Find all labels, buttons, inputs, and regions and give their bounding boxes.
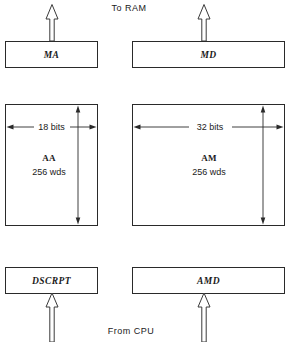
array-size-aa: 256 wds bbox=[32, 167, 66, 177]
to-ram-label: To RAM bbox=[111, 3, 146, 13]
register-label-ma: MA bbox=[43, 50, 60, 60]
register-label-dscrpt: DSCRPT bbox=[31, 276, 72, 286]
register-label-amd: AMD bbox=[196, 276, 220, 286]
diagram-canvas: To RAM MA MD 18 bits AA 256 wds bbox=[0, 0, 293, 342]
md-to-ram-arrow-icon bbox=[198, 5, 210, 42]
array-name-am: AM bbox=[201, 153, 217, 163]
memory-block-diagram: To RAM MA MD 18 bits AA 256 wds bbox=[0, 0, 293, 342]
array-name-aa: AA bbox=[42, 153, 56, 163]
am-width-label: 32 bits bbox=[197, 122, 224, 132]
from-cpu-label: From CPU bbox=[108, 326, 155, 336]
cpu-to-dscrpt-arrow-icon bbox=[46, 293, 58, 342]
cpu-to-amd-arrow-icon bbox=[198, 293, 210, 342]
ma-to-ram-arrow-icon bbox=[46, 5, 58, 42]
aa-width-label: 18 bits bbox=[38, 122, 65, 132]
array-size-am: 256 wds bbox=[192, 167, 226, 177]
register-label-md: MD bbox=[199, 50, 216, 60]
